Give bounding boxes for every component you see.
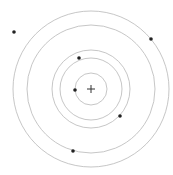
- point-3: [73, 88, 77, 92]
- point-4: [118, 114, 122, 118]
- point-2: [77, 56, 81, 60]
- concentric-rings-diagram: [0, 0, 173, 175]
- point-5: [71, 149, 75, 153]
- point-0: [12, 30, 16, 34]
- point-1: [149, 37, 153, 41]
- center-crosshair-icon: [87, 85, 95, 93]
